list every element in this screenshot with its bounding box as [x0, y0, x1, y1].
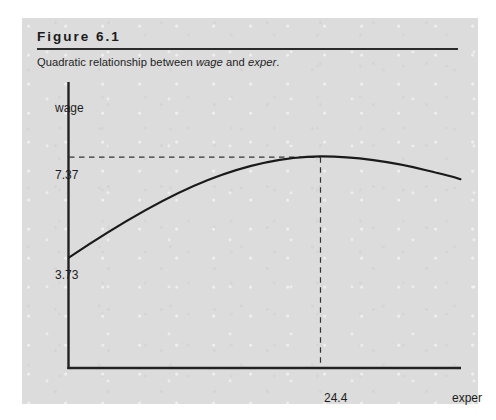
plot-area: wage 7.37 3.73 24.4 exper — [22, 18, 478, 404]
y-axis-label: wage — [55, 101, 84, 115]
quadratic-curve — [69, 156, 461, 257]
x-axis-tick-label-peak: 24.4 — [324, 391, 347, 405]
y-axis-tick-label-upper: 7.37 — [55, 168, 78, 182]
x-axis-label: exper — [452, 391, 482, 405]
figure-root: Figure 6.1 Quadratic relationship betwee… — [0, 0, 496, 420]
y-axis-tick-label-lower: 3.73 — [55, 268, 78, 282]
quadratic-wage-exper-plot — [22, 18, 478, 404]
